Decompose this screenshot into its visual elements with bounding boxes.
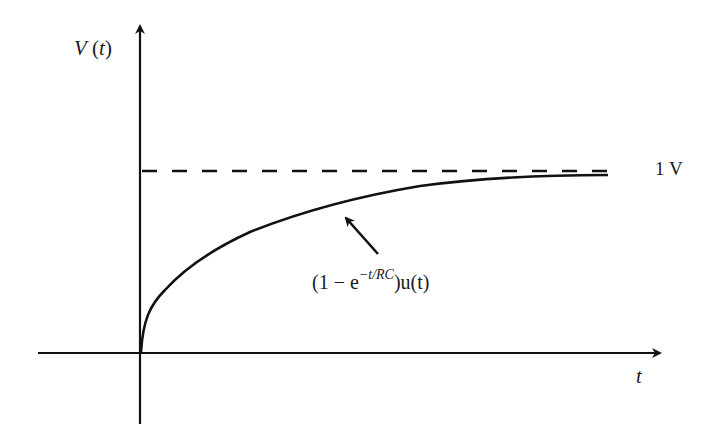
pointer-arrow	[346, 218, 378, 254]
asymptote-label: 1 V	[655, 158, 683, 180]
y-arg: t	[99, 36, 105, 60]
y-var: V	[74, 36, 87, 60]
curve-label-suffix: )u(t)	[394, 271, 430, 293]
y-axis-label: V (t)	[74, 36, 112, 61]
diagram-canvas	[0, 0, 717, 439]
curve-label: (1 − e−t/RC)u(t)	[312, 271, 430, 294]
charging-curve	[141, 175, 608, 352]
curve-label-exponent: −t/RC	[359, 267, 394, 282]
x-axis-label: t	[636, 364, 642, 389]
curve-label-prefix: (1 − e	[312, 271, 359, 293]
